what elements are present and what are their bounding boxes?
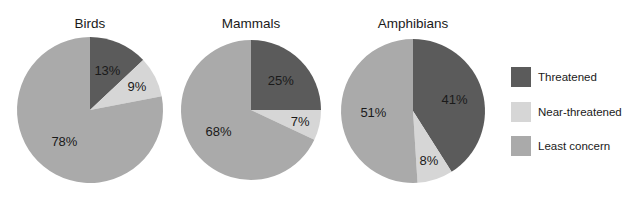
slice-label: 51% — [360, 105, 386, 120]
legend-label: Least concern — [538, 140, 610, 152]
legend-item-least-concern: Least concern — [511, 136, 610, 156]
pie-birds: Birds13%9%78% — [17, 16, 163, 183]
slice-label: 41% — [441, 92, 467, 107]
legend-label: Near-threatened — [538, 106, 622, 118]
pie-title: Amphibians — [378, 16, 449, 31]
slice-label: 68% — [205, 124, 231, 139]
slice-label: 25% — [268, 73, 294, 88]
pie-amphibians: Amphibians41%8%51% — [341, 16, 485, 183]
slice-label: 8% — [420, 153, 439, 168]
legend: ThreatenedNear-threatenedLeast concern — [511, 67, 622, 156]
legend-swatch — [511, 67, 531, 87]
legend-swatch — [511, 102, 531, 122]
slice-label: 9% — [127, 79, 146, 94]
pie-mammals: Mammals25%7%68% — [181, 16, 321, 180]
slice-label: 7% — [291, 114, 310, 129]
legend-swatch — [511, 136, 531, 156]
pie-title: Mammals — [222, 16, 281, 31]
legend-item-threatened: Threatened — [511, 67, 597, 87]
legend-label: Threatened — [538, 71, 597, 83]
pie-charts-figure: Birds13%9%78%Mammals25%7%68%Amphibians41… — [0, 0, 628, 203]
pie-title: Birds — [75, 16, 106, 31]
legend-item-near-threatened: Near-threatened — [511, 102, 622, 122]
slice-label: 13% — [94, 63, 120, 78]
slice-label: 78% — [51, 134, 77, 149]
